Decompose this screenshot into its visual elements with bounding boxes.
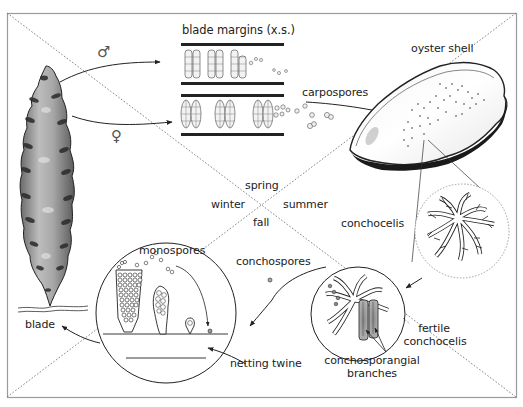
season-spring-label: spring [245,180,279,191]
oyster-shell-label: oyster shell [411,43,473,54]
female-symbol: ♀ [111,129,122,144]
female-arrow [72,116,172,124]
conchocelis-illustration [415,184,509,278]
season-fall-label: fall [253,217,269,228]
conchosporangial-label-line2: branches [322,368,422,379]
fertile-conchocelis-label-line2: conchocelis [402,336,468,347]
conchocelis-label: conchocelis [341,218,404,229]
blade-margins-label: blade margins (x.s.) [182,25,295,37]
carpospores-label: carpospores [302,87,368,98]
male-symbol: ♂ [97,45,110,60]
blade-label: blade [25,319,55,330]
to-blade-arrow [62,326,100,343]
monospores-label: monospores [139,245,205,256]
oyster-shell-illustration [350,63,507,171]
blade-thallus-illustration [18,66,88,312]
conchosporangial-label-line1: conchosporangial [322,355,422,366]
monospore-netting-illustration [96,243,236,383]
conchospore-dot [268,278,272,282]
fertile-conchocelis-illustration [311,267,405,361]
fertile-conchocelis-label-line1: fertile [406,323,462,334]
life-cycle-diagram: blade margins (x.s.) ♂ ♀ carpospores oys… [0,0,523,407]
conchospores-label: conchospores [236,256,311,267]
netting-twine-label: netting twine [230,358,302,369]
to-fertile-arrow [406,278,422,288]
season-winter-label: winter [211,199,245,210]
season-summer-label: summer [283,199,328,210]
male-arrow [60,62,160,82]
